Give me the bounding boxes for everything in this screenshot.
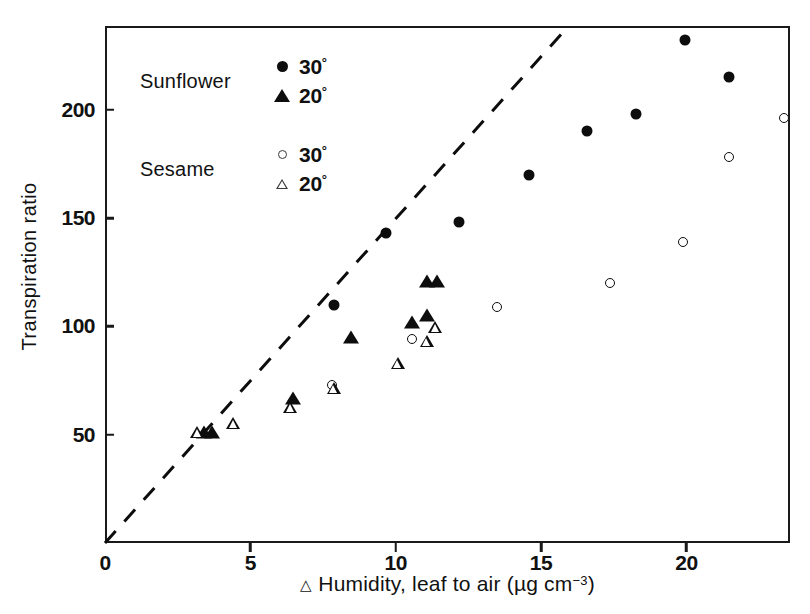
data-point-open-triangle	[391, 357, 405, 369]
y-tick-label-200: 200	[61, 98, 95, 122]
data-point-filled-triangle	[343, 331, 359, 344]
data-point-open-circle	[492, 302, 502, 312]
y-tick-labels: 20015010050	[0, 0, 95, 614]
legend-temperature-label: 30°	[299, 55, 327, 79]
x-axis-title-exponent: −3	[573, 573, 588, 588]
data-point-open-circle	[724, 152, 734, 162]
data-point-filled-circle	[581, 126, 592, 137]
data-point-filled-circle	[631, 108, 642, 119]
legend-marker-filled-triangle-icon	[265, 89, 299, 102]
data-point-open-circle	[407, 334, 417, 344]
legend-rows: 30°20°	[265, 52, 327, 110]
filled-triangle-icon	[274, 89, 290, 102]
degree-symbol: °	[322, 143, 327, 158]
degree-symbol: °	[322, 172, 327, 187]
data-point-filled-triangle	[429, 274, 445, 287]
data-point-open-circle	[779, 113, 789, 123]
data-point-filled-circle	[724, 72, 735, 83]
legend-item-sunflower-30: 30°	[265, 52, 327, 81]
data-point-filled-circle	[453, 217, 464, 228]
data-point-open-circle	[605, 278, 615, 288]
degree-symbol: °	[322, 84, 327, 99]
triangle-delta-icon: △	[300, 576, 312, 593]
legend-group-label-sesame: Sesame	[140, 158, 215, 181]
data-point-filled-circle	[680, 35, 691, 46]
legend-marker-open-triangle-icon	[265, 179, 299, 189]
y-tick-label-100: 100	[61, 314, 95, 338]
data-point-open-circle	[678, 237, 688, 247]
figure-scatter-transpiration-ratio: Transpiration ratio 20015010050 05101520…	[0, 0, 810, 614]
data-point-open-triangle	[190, 426, 204, 438]
legend: Sunflower30°20°Sesame30°20°	[140, 52, 370, 187]
legend-item-sesame-30: 30°	[265, 140, 327, 169]
data-point-filled-circle	[523, 169, 534, 180]
data-point-open-triangle	[428, 321, 442, 333]
legend-item-sesame-20: 20°	[265, 169, 327, 198]
legend-rows: 30°20°	[265, 140, 327, 198]
data-point-open-triangle	[226, 417, 240, 429]
degree-symbol: °	[322, 55, 327, 70]
data-point-open-triangle	[327, 382, 341, 394]
legend-marker-filled-circle-icon	[265, 61, 299, 72]
data-point-filled-circle	[328, 299, 339, 310]
y-tick-label-50: 50	[73, 423, 95, 447]
legend-marker-open-circle-icon	[265, 150, 299, 159]
data-point-filled-triangle	[204, 426, 220, 439]
legend-group-sesame: Sesame30°20°	[140, 140, 370, 198]
y-tick-label-150: 150	[61, 206, 95, 230]
legend-temperature-label: 30°	[299, 143, 327, 167]
legend-group-label-sunflower: Sunflower	[140, 70, 231, 93]
legend-item-sunflower-20: 20°	[265, 81, 327, 110]
data-point-filled-circle	[381, 228, 392, 239]
data-point-open-triangle	[420, 335, 434, 347]
x-axis-title-tail: )	[588, 572, 595, 595]
x-axis-title: △ Humidity, leaf to air (µg cm−3)	[105, 572, 790, 596]
filled-circle-icon	[277, 61, 288, 72]
open-triangle-icon	[276, 179, 288, 189]
x-axis-title-main: Humidity, leaf to air (µg cm	[312, 572, 572, 595]
legend-temperature-label: 20°	[299, 84, 327, 108]
legend-temperature-label: 20°	[299, 172, 327, 196]
legend-group-sunflower: Sunflower30°20°	[140, 52, 370, 110]
data-point-open-triangle	[283, 401, 297, 413]
open-circle-icon	[278, 150, 287, 159]
